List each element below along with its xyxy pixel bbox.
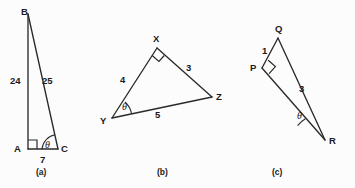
- vertex-label-Q: Q: [275, 23, 282, 34]
- vertex-label-P: P: [250, 62, 257, 73]
- figure-canvas: B A C 24 25 7 θ (a) X Y Z: [0, 0, 355, 188]
- geometry-figure: B A C 24 25 7 θ (a) X Y Z: [0, 0, 355, 188]
- side-label-XZ: 3: [186, 62, 191, 73]
- caption-b: (b): [157, 167, 168, 177]
- vertex-label-X: X: [153, 33, 160, 44]
- panel-b: X Y Z 4 3 5 θ (b): [100, 33, 222, 177]
- right-angle-marker-P: [268, 60, 275, 73]
- edge-PR: [262, 68, 325, 140]
- edge-YZ: [112, 97, 212, 118]
- caption-c: (c): [272, 167, 283, 177]
- angle-label-theta-R: θ: [297, 110, 302, 121]
- vertex-label-C: C: [61, 143, 68, 154]
- side-label-AC: 7: [40, 154, 45, 165]
- side-label-QR: 3: [299, 83, 304, 94]
- vertex-label-A: A: [14, 143, 21, 154]
- vertex-label-R: R: [329, 135, 336, 146]
- right-angle-marker-A: [28, 140, 37, 149]
- vertex-label-Y: Y: [100, 115, 107, 126]
- side-label-XY: 4: [120, 74, 126, 85]
- side-label-BC: 25: [42, 75, 53, 86]
- edge-XY: [112, 48, 157, 118]
- right-angle-marker-X: [152, 56, 164, 62]
- panel-c: Q P R 1 3 θ (c): [250, 23, 336, 177]
- vertex-label-Z: Z: [216, 91, 222, 102]
- side-label-AB: 24: [10, 75, 21, 86]
- vertex-label-B: B: [21, 6, 28, 17]
- angle-label-theta-Y: θ: [122, 101, 127, 112]
- side-label-YZ: 5: [155, 109, 161, 120]
- side-label-PQ: 1: [262, 45, 268, 56]
- edge-XZ: [157, 48, 212, 97]
- caption-a: (a): [36, 167, 47, 177]
- angle-label-theta-C: θ: [45, 139, 50, 150]
- panel-a: B A C 24 25 7 θ (a): [10, 6, 68, 177]
